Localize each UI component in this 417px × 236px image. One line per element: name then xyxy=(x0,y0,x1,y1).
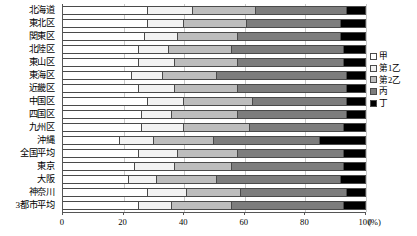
y-axis-label: 東海区 xyxy=(0,69,58,82)
bar-segment xyxy=(135,163,174,170)
bar-segment xyxy=(148,98,184,105)
bar-segment xyxy=(184,124,250,131)
legend-label: 甲 xyxy=(379,52,388,61)
bar-segment xyxy=(63,72,132,79)
bar-segment xyxy=(157,176,217,183)
bar-segment xyxy=(238,59,344,66)
bar-segment xyxy=(232,46,344,53)
legend-item: 第2乙 xyxy=(370,76,415,85)
stacked-bar xyxy=(63,71,366,80)
y-axis-label: 3都市平均 xyxy=(0,199,58,212)
bar-row xyxy=(63,43,366,56)
bar-segment xyxy=(148,20,184,27)
y-axis-label: 四国区 xyxy=(0,108,58,121)
stacked-bar xyxy=(63,97,366,106)
stacked-bar xyxy=(63,201,366,210)
bar-segment xyxy=(63,202,139,209)
bar-row xyxy=(63,30,366,43)
bar-segment xyxy=(347,7,365,14)
bar-segment xyxy=(63,137,120,144)
bar-segment xyxy=(63,163,135,170)
legend-swatch xyxy=(370,76,377,83)
bar-row xyxy=(63,56,366,69)
legend-item: 丙 xyxy=(370,87,415,96)
y-axis-category-labels: 北海道東北区関東区北陸区東山区東海区近畿区中国区四国区九州区沖縄全国平均東京大阪… xyxy=(0,4,58,212)
bar-segment xyxy=(63,7,148,14)
bar-segment xyxy=(232,163,344,170)
stacked-bar-chart: 北海道東北区関東区北陸区東山区東海区近畿区中国区四国区九州区沖縄全国平均東京大阪… xyxy=(0,0,417,236)
legend: 甲第1乙第2乙丙丁 xyxy=(370,52,415,108)
bar-segment xyxy=(253,98,347,105)
legend-label: 第2乙 xyxy=(379,76,401,85)
bar-segment xyxy=(347,72,365,79)
bar-segment xyxy=(241,189,347,196)
bar-row xyxy=(63,4,366,17)
x-axis-tick xyxy=(123,212,124,215)
bar-segment xyxy=(347,189,365,196)
bar-segment xyxy=(193,7,256,14)
bar-segment xyxy=(178,33,238,40)
stacked-bar xyxy=(63,149,366,158)
bar-segment xyxy=(217,176,341,183)
legend-label: 第1乙 xyxy=(379,64,401,73)
x-axis: 020406080100 xyxy=(62,212,365,213)
x-axis-tick xyxy=(244,212,245,215)
bar-segment xyxy=(63,85,139,92)
bar-segment xyxy=(148,189,187,196)
bar-segment xyxy=(139,202,172,209)
bar-segment xyxy=(63,111,142,118)
legend-swatch xyxy=(370,53,377,60)
bar-segment xyxy=(214,137,320,144)
legend-item: 甲 xyxy=(370,52,415,61)
bar-segment xyxy=(238,150,344,157)
bar-row xyxy=(63,173,366,186)
x-axis-unit-label: (%) xyxy=(368,217,381,227)
stacked-bar xyxy=(63,188,366,197)
bar-row xyxy=(63,95,366,108)
bar-segment xyxy=(163,72,217,79)
bar-segment xyxy=(178,150,238,157)
bar-segment xyxy=(120,137,153,144)
bar-segment xyxy=(139,59,175,66)
bar-segment xyxy=(139,46,169,53)
bar-segment xyxy=(175,85,238,92)
bar-segment xyxy=(63,150,139,157)
bar-segment xyxy=(129,176,156,183)
gridline xyxy=(366,4,367,212)
bar-segment xyxy=(63,59,139,66)
x-axis-tick xyxy=(183,212,184,215)
y-axis-label: 近畿区 xyxy=(0,82,58,95)
bar-segment xyxy=(63,33,145,40)
bar-segment xyxy=(63,98,148,105)
bar-segment xyxy=(63,124,142,131)
bar-segment xyxy=(320,137,365,144)
y-axis-label: 関東区 xyxy=(0,30,58,43)
bar-segment xyxy=(169,46,232,53)
stacked-bar xyxy=(63,32,366,41)
bar-series-container xyxy=(63,4,366,212)
bar-segment xyxy=(175,163,232,170)
y-axis-label: 東山区 xyxy=(0,56,58,69)
legend-label: 丁 xyxy=(379,99,388,108)
y-axis-label: 九州区 xyxy=(0,121,58,134)
x-axis-tick xyxy=(365,212,366,215)
stacked-bar xyxy=(63,19,366,28)
bar-segment xyxy=(250,124,344,131)
legend-item: 丁 xyxy=(370,99,415,108)
bar-row xyxy=(63,134,366,147)
bar-segment xyxy=(63,189,148,196)
bar-segment xyxy=(142,124,184,131)
bar-segment xyxy=(238,33,341,40)
y-axis-label: 神奈川 xyxy=(0,186,58,199)
y-axis-label: 全国平均 xyxy=(0,147,58,160)
bar-segment xyxy=(341,20,365,27)
bar-segment xyxy=(232,202,344,209)
bar-segment xyxy=(172,202,232,209)
bar-segment xyxy=(344,59,365,66)
bar-row xyxy=(63,17,366,30)
legend-swatch xyxy=(370,65,377,72)
x-axis-tick-label: 40 xyxy=(179,217,188,227)
stacked-bar xyxy=(63,175,366,184)
stacked-bar xyxy=(63,6,366,15)
bar-row xyxy=(63,82,366,95)
